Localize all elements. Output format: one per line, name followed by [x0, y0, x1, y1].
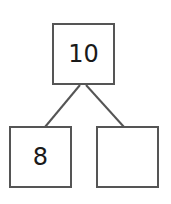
- part-box-left: 8: [9, 126, 72, 188]
- whole-box: 10: [52, 23, 115, 85]
- part-left-value: 8: [33, 143, 48, 171]
- connector-right: [86, 85, 124, 127]
- connector-left: [45, 85, 80, 127]
- whole-value: 10: [68, 40, 99, 68]
- part-box-right[interactable]: [96, 126, 159, 188]
